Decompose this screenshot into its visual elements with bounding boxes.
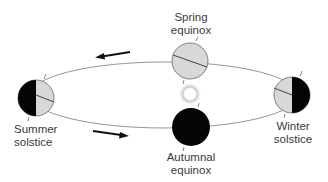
- autumnal-equinox-earth-icon: [172, 103, 210, 151]
- autumn-label-line1: Autumnal: [166, 151, 216, 164]
- sun-icon: [178, 82, 202, 106]
- autumn-label-line2: equinox: [166, 164, 216, 177]
- arrow-right-icon: [93, 131, 129, 139]
- winter-label-line2: solstice: [273, 133, 313, 146]
- orbit-ellipse: [30, 62, 298, 128]
- summer-solstice-label: Summer solstice: [14, 123, 60, 149]
- summer-label-line1: Summer: [14, 123, 60, 136]
- spring-equinox-earth-icon: [172, 37, 208, 84]
- summer-label-line2: solstice: [14, 136, 60, 149]
- spring-equinox-label: Spring equinox: [170, 11, 212, 37]
- spring-label-line1: Spring: [170, 11, 212, 24]
- spring-label-line2: equinox: [170, 24, 212, 37]
- summer-solstice-earth-icon: [18, 74, 54, 121]
- winter-label-line1: Winter: [273, 120, 313, 133]
- winter-solstice-label: Winter solstice: [273, 120, 313, 146]
- autumnal-equinox-label: Autumnal equinox: [166, 151, 216, 177]
- orbit-diagram: [0, 0, 328, 182]
- arrow-left-icon: [95, 52, 130, 60]
